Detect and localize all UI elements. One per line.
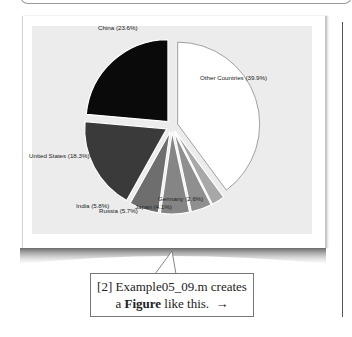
callout-box: [2] Example05_09.m creates a Figure like…	[90, 273, 254, 317]
callout-figure-term: Figure	[124, 296, 161, 311]
arrow-right-icon: →	[216, 296, 229, 311]
callout-text: [2] Example05_09.m creates a Figure like…	[91, 278, 253, 312]
callout-line-2-suffix: like this.	[161, 296, 209, 311]
callout-line-1: [2] Example05_09.m creates	[97, 279, 247, 294]
